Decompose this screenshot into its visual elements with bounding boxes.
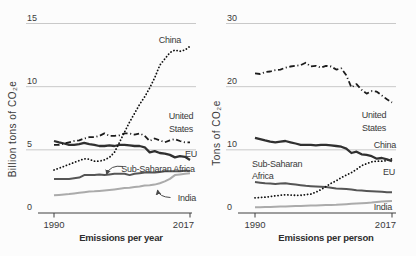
series-line-united-states: [54, 133, 190, 144]
emissions-dual-chart: 05101519902017ChinaUnitedStatesEUSub-Sah…: [0, 0, 416, 256]
series-label-states: States: [362, 123, 387, 133]
y-tick-label: 5: [27, 139, 32, 149]
y-tick-label: 10: [227, 139, 237, 149]
series-line-sub-saharan-africa: [255, 182, 392, 192]
y-axis-title: Tons of CO₂e: [211, 100, 222, 165]
series-label-united: United: [169, 111, 194, 121]
y-tick-label: 30: [227, 13, 237, 23]
y-tick-label: 0: [227, 202, 232, 212]
y-tick-label: 0: [27, 202, 32, 212]
series-label-africa: Africa: [252, 171, 274, 181]
series-label-eu: EU: [383, 167, 395, 177]
series-line-india: [255, 201, 392, 207]
chart-canvas: 05101519902017ChinaUnitedStatesEUSub-Sah…: [0, 0, 416, 256]
series-label-sub-saharan: Sub-Saharan: [252, 159, 303, 169]
x-axis-title: Emissions per person: [278, 232, 374, 243]
x-tick-label: 1990: [244, 219, 265, 230]
series-label-united: United: [362, 110, 387, 120]
panel-emissions-per-year: 05101519902017ChinaUnitedStatesEUSub-Sah…: [7, 13, 197, 244]
series-label-states: States: [169, 124, 194, 134]
y-tick-label: 15: [27, 13, 37, 23]
x-tick-label: 2017: [173, 219, 194, 230]
series-line-china: [54, 46, 190, 170]
series-label-eu: EU: [185, 149, 197, 159]
series-label-china: China: [374, 140, 397, 150]
x-axis-title: Emissions per year: [79, 232, 163, 243]
x-tick-label: 1990: [43, 219, 64, 230]
series-line-india: [54, 173, 190, 195]
x-tick-label: 2017: [375, 219, 396, 230]
series-line-united-states: [255, 63, 392, 103]
series-label-sub-saharan-africa: Sub-Saharan Africa: [121, 164, 195, 174]
panel-emissions-per-person: 010203019902017UnitedStatesChinaEUSub-Sa…: [211, 13, 396, 244]
series-label-india: India: [374, 202, 393, 212]
y-tick-label: 20: [227, 76, 237, 86]
y-axis-title: Billion tons of CO₂e: [7, 81, 18, 178]
series-label-india: India: [178, 193, 197, 203]
series-label-china: China: [159, 35, 182, 45]
series-line-eu: [54, 141, 190, 160]
y-tick-label: 10: [27, 76, 37, 86]
annotation-arrow: [158, 190, 171, 198]
